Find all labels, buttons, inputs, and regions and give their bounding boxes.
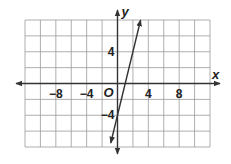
- y-tick-label: −4: [101, 108, 115, 122]
- y-tick-label: 4: [108, 45, 115, 59]
- x-tick-label: 4: [145, 87, 152, 101]
- x-tick-label: 8: [176, 87, 183, 101]
- x-tick-label: −4: [80, 87, 94, 101]
- y-axis-label: y: [121, 4, 130, 19]
- line-series: [111, 20, 141, 143]
- graphed-line: [111, 20, 141, 143]
- origin-label: O: [103, 85, 113, 100]
- coordinate-plane: −8−4484−4Oxy: [0, 0, 231, 164]
- x-tick-label: −8: [49, 87, 63, 101]
- axes: [16, 10, 220, 154]
- x-axis-label: x: [211, 67, 220, 82]
